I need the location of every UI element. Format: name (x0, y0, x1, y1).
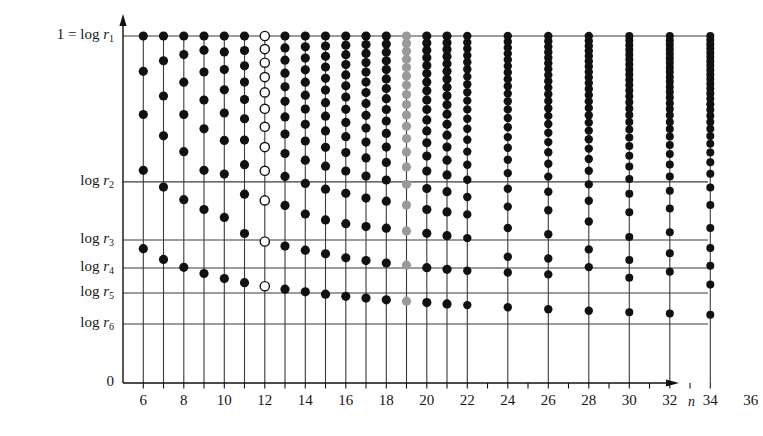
data-point (402, 110, 411, 119)
data-point (504, 114, 512, 122)
data-point (442, 110, 451, 119)
data-point (341, 148, 350, 157)
data-point (504, 169, 512, 177)
data-point (382, 65, 391, 74)
x-axis-tick-label-24: 24 (488, 393, 528, 408)
data-point (301, 156, 310, 165)
data-point (260, 58, 269, 67)
data-point (260, 88, 269, 97)
data-point (260, 45, 269, 54)
data-point (625, 133, 633, 141)
data-point (382, 84, 391, 93)
data-point (280, 31, 289, 40)
data-point (139, 110, 148, 119)
data-point (706, 244, 714, 252)
data-point (585, 197, 593, 205)
data-point (706, 132, 714, 140)
data-point (382, 56, 391, 65)
data-point (544, 230, 552, 238)
data-point (422, 184, 431, 193)
data-point (442, 156, 451, 165)
data-point (139, 166, 148, 175)
data-point (625, 175, 633, 183)
data-point (260, 122, 269, 131)
data-point (179, 50, 188, 59)
data-point (442, 120, 451, 129)
data-point (179, 147, 188, 156)
data-point (280, 172, 289, 181)
data-point (361, 58, 370, 67)
data-point (382, 74, 391, 83)
data-point (442, 299, 451, 308)
data-point (341, 118, 350, 127)
data-point (382, 197, 391, 206)
data-point (625, 163, 633, 171)
data-point (361, 172, 370, 181)
x-axis-tick-label-8: 8 (164, 393, 204, 408)
data-point (442, 143, 451, 152)
data-point (280, 82, 289, 91)
data-point (321, 98, 330, 107)
data-point (301, 209, 310, 218)
data-point (544, 160, 552, 168)
data-point (402, 297, 411, 306)
data-point (442, 83, 451, 92)
x-axis-tick-label-14: 14 (285, 393, 325, 408)
data-point (463, 267, 471, 275)
data-point (301, 78, 310, 87)
data-point (341, 41, 350, 50)
data-point (341, 81, 350, 90)
data-point (402, 72, 411, 81)
data-point (666, 249, 674, 257)
y-axis-tick-label-r3: log r3 (80, 231, 114, 246)
data-point (504, 97, 512, 105)
data-point (260, 31, 269, 40)
data-point (585, 144, 593, 152)
data-point (361, 153, 370, 162)
data-point (240, 46, 249, 55)
data-point (139, 244, 148, 253)
data-point (220, 213, 229, 222)
x-axis-tick-label-6: 6 (123, 393, 163, 408)
data-point (199, 95, 208, 104)
data-point (179, 78, 188, 87)
data-point (504, 144, 512, 152)
data-point (422, 86, 431, 95)
data-point (442, 170, 451, 179)
data-point (382, 39, 391, 48)
data-point (361, 77, 370, 86)
data-point (666, 150, 674, 158)
data-point (341, 132, 350, 141)
data-point (666, 172, 674, 180)
data-point (544, 112, 552, 120)
data-point (361, 138, 370, 147)
data-point (341, 93, 350, 102)
data-point (341, 31, 350, 40)
data-point (199, 67, 208, 76)
data-point (382, 94, 391, 103)
data-point (402, 100, 411, 109)
data-point (341, 105, 350, 114)
data-point (321, 249, 330, 258)
data-point (382, 129, 391, 138)
data-point (402, 63, 411, 72)
data-point (260, 73, 269, 82)
data-point (280, 201, 289, 210)
data-point (361, 31, 370, 40)
data-point (504, 303, 512, 311)
data-point (220, 274, 229, 283)
data-point (666, 133, 674, 141)
data-point (402, 81, 411, 90)
data-point (280, 149, 289, 158)
data-point (321, 41, 330, 50)
data-point (382, 258, 391, 267)
data-point (382, 31, 391, 40)
data-point (361, 99, 370, 108)
data-point (382, 295, 391, 304)
data-point (199, 269, 208, 278)
data-point (199, 124, 208, 133)
data-point (585, 263, 593, 271)
data-point (301, 120, 310, 129)
